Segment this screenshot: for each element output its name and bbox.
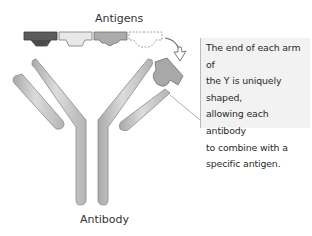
left-light-chain [13,74,64,129]
callout-line-4: to combine with a [206,140,306,157]
callout-line-2: the Y is uniquely shaped, [206,73,306,106]
antigen-row [24,32,162,47]
antigen-light-shape [59,32,92,46]
antigen-medium-shape [94,32,127,46]
antibody-label: Antibody [80,213,129,226]
antigens-label: Antigens [95,12,143,25]
antigen-dashed-shape [129,32,162,47]
right-heavy-chain [98,59,153,205]
curved-arrow-icon [165,38,186,61]
callout-line-3: allowing each antibody [206,106,306,139]
left-heavy-chain [32,59,86,205]
antibody-shape [13,58,183,205]
bound-antigen [153,58,183,86]
callout-leader-line [170,95,200,120]
callout-box: The end of each arm of the Y is uniquely… [200,38,310,128]
callout-line-1: The end of each arm of [206,40,306,73]
antigen-dark-shape [24,32,57,46]
callout-line-5: specific antigen. [206,156,306,173]
